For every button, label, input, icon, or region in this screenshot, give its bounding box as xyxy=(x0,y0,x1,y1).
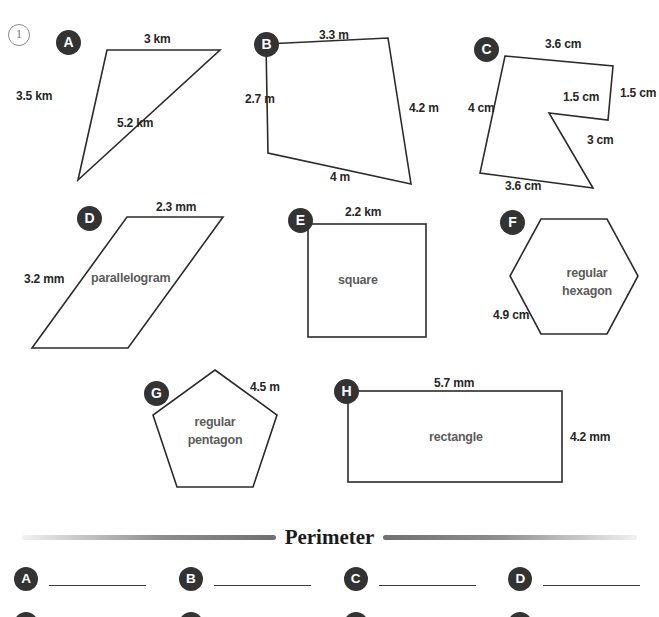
answer-row: E F G H xyxy=(0,601,659,617)
answer-cell-a[interactable]: A xyxy=(0,556,165,601)
label-h-right: 4.2 mm xyxy=(570,430,610,444)
label-b-bottom: 4 m xyxy=(330,170,350,184)
label-b-right: 4.2 m xyxy=(409,101,439,115)
answer-badge-g: G xyxy=(344,612,368,617)
badge-e: E xyxy=(288,208,313,233)
label-g-shape-name-line1: regular xyxy=(178,414,252,431)
answer-grid: A B C D E F xyxy=(0,556,659,617)
label-c-bottom: 3.6 cm xyxy=(505,179,541,193)
answer-cell-h[interactable]: H xyxy=(494,601,659,617)
answer-cell-c[interactable]: C xyxy=(330,556,495,601)
label-c-left: 4 cm xyxy=(468,101,495,115)
badge-b: B xyxy=(254,32,279,57)
label-f-side: 4.9 cm xyxy=(493,308,529,322)
label-b-top: 3.3 m xyxy=(319,28,349,42)
badge-f: F xyxy=(500,210,525,235)
answer-blank-c[interactable] xyxy=(379,585,476,586)
answer-cell-g[interactable]: G xyxy=(330,601,495,617)
badge-c: C xyxy=(474,37,499,62)
perimeter-section-header: Perimeter xyxy=(0,520,659,554)
answer-cell-e[interactable]: E xyxy=(0,601,165,617)
label-g-side: 4.5 m xyxy=(250,380,280,394)
divider-left xyxy=(22,535,276,540)
badge-g: G xyxy=(144,381,169,406)
label-d-left: 3.2 mm xyxy=(24,272,64,286)
answer-cell-b[interactable]: B xyxy=(165,556,330,601)
label-a-hypotenuse: 5.2 km xyxy=(117,116,153,130)
label-e-shape-name: square xyxy=(338,272,378,289)
shape-a-triangle xyxy=(78,50,220,180)
worksheet-page: 1 A 3 km 3.5 km 5.2 km B 3.3 m 2.7 m 4.2… xyxy=(0,0,659,617)
badge-h: H xyxy=(334,379,359,404)
badge-a: A xyxy=(56,30,81,55)
answer-row: A B C D xyxy=(0,556,659,601)
answer-cell-f[interactable]: F xyxy=(165,601,330,617)
answer-badge-d: D xyxy=(508,567,532,591)
label-c-notch: 1.5 cm xyxy=(563,90,599,104)
figure-c xyxy=(450,0,650,200)
label-e-top: 2.2 km xyxy=(345,205,381,219)
answer-badge-h: H xyxy=(508,612,532,617)
answer-badge-f: F xyxy=(179,612,203,617)
answer-blank-a[interactable] xyxy=(49,585,146,586)
answer-blank-d[interactable] xyxy=(543,585,640,586)
label-c-top: 3.6 cm xyxy=(545,37,581,51)
answer-cell-d[interactable]: D xyxy=(494,556,659,601)
label-f-shape-name-line2: hexagon xyxy=(550,283,624,300)
answer-blank-b[interactable] xyxy=(214,585,311,586)
label-h-shape-name: rectangle xyxy=(429,429,483,446)
label-a-left: 3.5 km xyxy=(16,89,52,103)
label-c-diagonal: 3 cm xyxy=(587,133,614,147)
answer-badge-b: B xyxy=(179,567,203,591)
answer-badge-e: E xyxy=(14,612,38,617)
shape-c-concave-polygon xyxy=(480,56,613,188)
answer-badge-a: A xyxy=(14,567,38,591)
label-d-shape-name: parallelogram xyxy=(91,270,170,287)
label-g-shape-name-line2: pentagon xyxy=(178,432,252,449)
answer-badge-c: C xyxy=(344,567,368,591)
badge-d: D xyxy=(77,206,102,231)
label-d-top: 2.3 mm xyxy=(156,200,196,214)
shape-b-quadrilateral xyxy=(266,38,411,184)
section-title: Perimeter xyxy=(276,525,384,550)
label-c-right: 1.5 cm xyxy=(620,86,656,100)
label-a-top: 3 km xyxy=(144,32,171,46)
label-b-left: 2.7 m xyxy=(245,92,275,106)
label-h-top: 5.7 mm xyxy=(434,376,474,390)
label-f-shape-name-line1: regular xyxy=(550,265,624,282)
divider-right xyxy=(383,535,637,540)
